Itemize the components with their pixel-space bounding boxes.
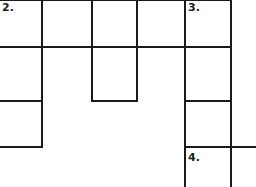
crossword-cell-r1c2[interactable] bbox=[41, 0, 93, 48]
crossword-cell-r4c5[interactable]: 4. bbox=[184, 146, 232, 187]
crossword-cell-r1c4[interactable] bbox=[136, 0, 186, 48]
crossword-cell-r3c5[interactable] bbox=[184, 100, 232, 148]
crossword-cell-r1c1[interactable]: 2. bbox=[0, 0, 43, 48]
crossword-cell-r2c1[interactable] bbox=[0, 46, 43, 102]
clue-number-2: 2. bbox=[2, 2, 14, 14]
crossword-cell-r4c6[interactable] bbox=[230, 146, 256, 187]
crossword-cell-r2c3[interactable] bbox=[91, 46, 138, 102]
crossword-cell-r3c1[interactable] bbox=[0, 100, 43, 148]
crossword-cell-r1c5[interactable]: 3. bbox=[184, 0, 232, 48]
clue-number-3: 3. bbox=[188, 2, 200, 14]
crossword-cell-r2c5[interactable] bbox=[184, 46, 232, 102]
clue-number-4: 4. bbox=[188, 152, 200, 164]
crossword-cell-r1c3[interactable] bbox=[91, 0, 138, 48]
